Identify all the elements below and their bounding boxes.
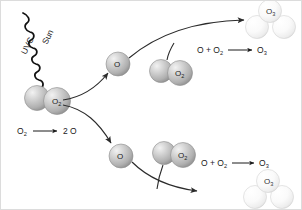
ozone-formation-diagram: Sun UVC O2 O2 2 O O O2 [1, 1, 302, 210]
molecule-o2-lower: O2 [153, 142, 196, 190]
arrow-combine-up [129, 20, 244, 58]
equation-dissociation: O2 2 O [17, 126, 77, 137]
svg-text:O2: O2 [17, 126, 27, 137]
diagram-container: Sun UVC O2 O2 2 O O O2 [0, 0, 302, 210]
svg-text:O3: O3 [257, 45, 267, 56]
equation-recombination-lower: O + O2 O3 [201, 158, 269, 169]
sun-label: Sun [40, 28, 56, 46]
molecule-o2-upper: O2 [150, 43, 193, 86]
molecule-atomic-o-lower: O [109, 144, 133, 168]
molecule-atomic-o-upper: O [106, 52, 130, 76]
molecule-label-atomic-o-lower: O [117, 152, 123, 161]
svg-text:O + O2: O + O2 [201, 158, 227, 169]
equation-recombination-upper: O + O2 O3 [197, 45, 267, 56]
svg-text:2 O: 2 O [63, 126, 77, 136]
svg-text:O3: O3 [259, 158, 269, 169]
arrow-split-down [63, 105, 111, 143]
molecule-o3-upper: O3 [246, 1, 296, 39]
molecule-label-atomic-o-upper: O [114, 60, 120, 69]
molecule-o3-lower: O3 [244, 170, 294, 209]
svg-text:O + O2: O + O2 [197, 45, 223, 56]
